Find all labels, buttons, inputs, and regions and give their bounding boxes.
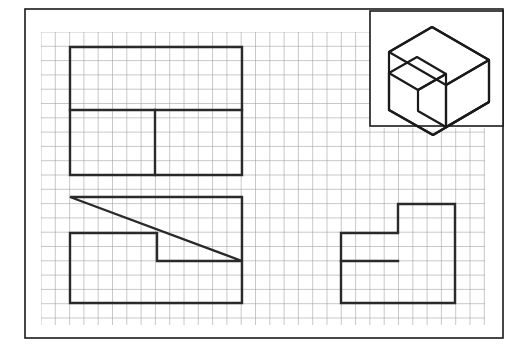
- worksheet-page: [0, 0, 525, 354]
- isometric-pictorial: [370, 11, 503, 135]
- technical-drawing: [0, 0, 525, 354]
